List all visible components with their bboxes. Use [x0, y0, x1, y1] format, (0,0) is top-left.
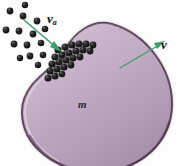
particle: [69, 54, 76, 61]
particle: [24, 42, 31, 49]
particle: [17, 55, 23, 61]
particle: [77, 54, 84, 61]
particle: [75, 40, 82, 47]
particle: [40, 52, 47, 59]
particle: [27, 53, 34, 60]
incoming-velocity-subscript: a: [53, 18, 57, 27]
particle: [61, 43, 68, 50]
physics-diagram: va v m: [0, 0, 184, 166]
particle: [68, 41, 75, 48]
particle: [62, 56, 69, 63]
particle: [46, 67, 53, 74]
particle: [30, 31, 37, 38]
particle: [22, 2, 28, 8]
particle: [34, 18, 41, 25]
particle: [87, 48, 94, 55]
particle: [7, 8, 14, 15]
particle: [60, 63, 67, 70]
particle: [72, 47, 79, 54]
particle: [45, 75, 52, 82]
particle: [35, 62, 41, 68]
mass-label: m: [78, 99, 87, 110]
outgoing-velocity-label: v: [161, 38, 167, 51]
particle: [68, 62, 75, 69]
particle: [79, 46, 86, 53]
particle: [38, 40, 45, 47]
diagram-canvas: [0, 0, 184, 166]
particle: [20, 13, 27, 20]
particle: [11, 41, 18, 48]
particle: [3, 27, 10, 34]
particle: [59, 71, 66, 78]
particle: [52, 73, 59, 80]
particle: [53, 65, 60, 72]
particle: [90, 42, 97, 49]
incoming-velocity-label: va: [47, 12, 57, 27]
particle: [16, 28, 23, 35]
